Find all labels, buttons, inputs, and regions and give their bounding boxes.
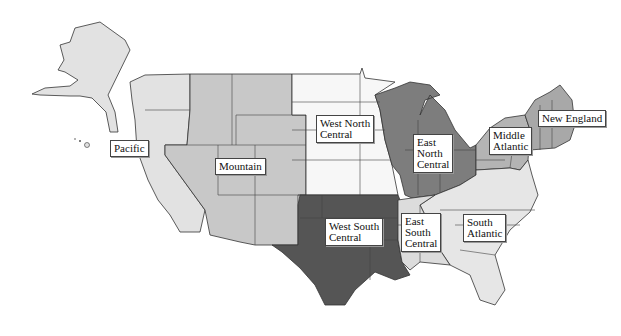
region-label-south-atlantic: South Atlantic — [463, 214, 506, 242]
region-label-middle-atlantic: Middle Atlantic — [489, 127, 532, 155]
us-census-regions-map — [0, 0, 621, 336]
region-label-east-north-central: East North Central — [413, 134, 453, 173]
region-label-mountain: Mountain — [215, 158, 266, 175]
region-label-west-north-central: West North Central — [316, 115, 374, 143]
region-label-new-england: New England — [538, 110, 606, 127]
region-label-west-south-central: West South Central — [325, 218, 383, 246]
hawaii-shape — [85, 143, 90, 148]
region-label-pacific: Pacific — [110, 140, 149, 157]
alaska-shape — [32, 22, 130, 132]
region-label-east-south-central: East South Central — [401, 213, 441, 252]
